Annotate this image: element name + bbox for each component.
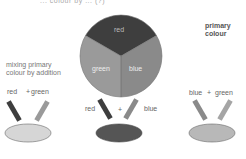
mix1-label-b: green: [31, 88, 49, 96]
green-filter-bar: [217, 99, 232, 121]
result-ellipse-red-blue: [96, 124, 142, 142]
mix1-plus: +: [26, 88, 30, 96]
mix-red-blue: [96, 98, 142, 142]
wheel-label-green: green: [92, 65, 110, 73]
mix3-plus: +: [207, 89, 211, 97]
red-filter-bar: [97, 98, 112, 120]
mix2-label-b: blue: [144, 105, 157, 113]
blue-filter-bar: [192, 99, 207, 121]
mix3-label-b: green: [215, 89, 233, 97]
red-filter-bar: [6, 100, 21, 122]
mix2-label-a: red: [85, 105, 95, 113]
result-ellipse-blue-green: [189, 124, 235, 142]
title-mixing-primary: mixing primary colour by addition: [6, 61, 66, 77]
result-ellipse-red-green: [5, 124, 51, 142]
mix-blue-green: [189, 99, 235, 142]
mix3-label-a: blue: [189, 89, 202, 97]
mix2-plus: +: [118, 106, 122, 114]
mix1-label-a: red: [7, 88, 17, 96]
wheel-label-red: red: [114, 26, 124, 34]
wheel-label-blue: blue: [129, 65, 142, 73]
green-filter-bar: [34, 100, 49, 122]
blue-filter-bar: [123, 98, 138, 120]
mix-red-green: [5, 100, 51, 142]
title-primary-colour: primary colour: [205, 22, 246, 38]
